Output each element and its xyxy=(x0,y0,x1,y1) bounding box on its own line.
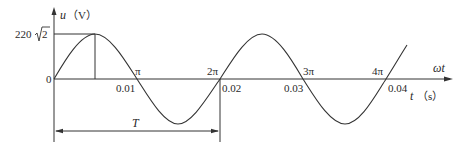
peak-label-root: 2 xyxy=(42,28,48,40)
y-axis-unit: （V） xyxy=(67,9,97,21)
time-tick-004: 0.04 xyxy=(388,82,408,94)
phase-tick-3pi: 3π xyxy=(303,65,315,77)
time-tick-003: 0.03 xyxy=(284,82,304,94)
peak-label: 220 xyxy=(15,28,32,40)
x-axis-time-unit: （s） xyxy=(417,90,443,102)
period-label: T xyxy=(132,116,140,130)
x-axis-phase-label: ωt xyxy=(433,61,445,75)
period-arrow-left-icon xyxy=(55,129,63,133)
y-axis-var: u xyxy=(60,8,66,22)
time-tick-002: 0.02 xyxy=(222,82,241,94)
phase-tick-pi: π xyxy=(135,65,141,77)
time-tick-001: 0.01 xyxy=(116,82,135,94)
y-axis-arrow-icon xyxy=(52,7,57,15)
period-arrow-right-icon xyxy=(211,129,219,133)
origin-label: 0 xyxy=(46,73,52,85)
x-axis-time-var: t xyxy=(410,89,414,103)
phase-tick-2pi: 2π xyxy=(207,65,219,77)
sine-wave-diagram: u （V） 220 2 0 π 2π 3π 4π 0.01 0.02 0.03 … xyxy=(0,0,468,152)
x-axis-arrow-icon xyxy=(444,77,453,82)
phase-tick-4pi: 4π xyxy=(372,65,384,77)
